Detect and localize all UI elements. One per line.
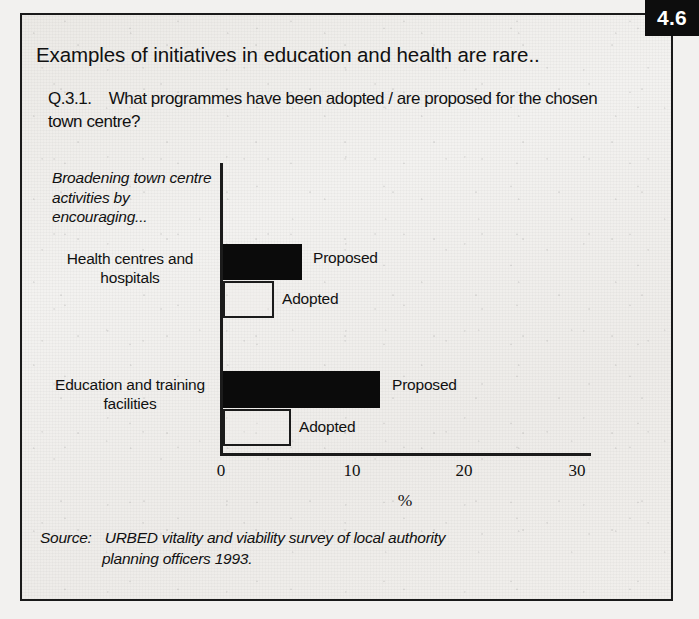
category-label-health: Health centres and hospitals bbox=[44, 250, 216, 288]
figure-number-badge: 4.6 bbox=[645, 0, 699, 36]
bar-chart: Broadening town centre activities by enc… bbox=[0, 0, 653, 588]
chart-title: Broadening town centre activities by enc… bbox=[52, 168, 224, 227]
bar-label-education-proposed: Proposed bbox=[392, 376, 457, 394]
bar-health-proposed bbox=[223, 244, 302, 280]
x-tick-0: 0 bbox=[201, 461, 241, 481]
x-tick-20: 20 bbox=[444, 461, 484, 481]
bar-education-proposed bbox=[223, 371, 380, 408]
bar-label-health-proposed: Proposed bbox=[313, 249, 378, 267]
x-axis-title: % bbox=[385, 490, 425, 511]
x-tick-10: 10 bbox=[332, 461, 372, 481]
x-tick-30: 30 bbox=[557, 461, 597, 481]
bar-label-health-adopted: Adopted bbox=[282, 290, 338, 308]
source-line-2: planning officers 1993. bbox=[102, 549, 630, 570]
category-label-education: Education and training facilities bbox=[44, 376, 216, 414]
source-label: Source: bbox=[40, 529, 92, 546]
bar-health-adopted bbox=[223, 281, 274, 318]
figure-page: 4.6 Examples of initiatives in education… bbox=[0, 0, 699, 619]
source-line-1: URBED vitality and viability survey of l… bbox=[105, 528, 446, 549]
source-note: Source: URBED vitality and viability sur… bbox=[40, 528, 630, 570]
x-axis-line bbox=[220, 453, 591, 456]
bar-education-adopted bbox=[223, 409, 291, 446]
bar-label-education-adopted: Adopted bbox=[299, 418, 355, 436]
